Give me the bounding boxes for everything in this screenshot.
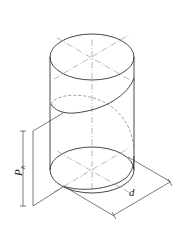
- helix-front-curve: [51, 78, 134, 113]
- bottom-center-line-2: [54, 148, 129, 192]
- helix-hidden-curve: [51, 95, 134, 150]
- svg-text:P: P: [12, 169, 24, 177]
- pitch-label: P h: [12, 165, 27, 177]
- diameter-dimension-line: [114, 182, 170, 215]
- bottom-center-line-1: [57, 151, 130, 193]
- svg-text:h: h: [19, 165, 27, 169]
- pitch-extension-top: [33, 113, 63, 131]
- top-center-line-1: [57, 38, 130, 80]
- helix-cylinder-diagram: P h d: [0, 0, 189, 227]
- top-center-line-2: [54, 35, 129, 79]
- pitch-extension-bottom: [33, 187, 63, 206]
- diameter-label: d: [129, 186, 135, 198]
- helix-bottom-curve: [63, 156, 134, 189]
